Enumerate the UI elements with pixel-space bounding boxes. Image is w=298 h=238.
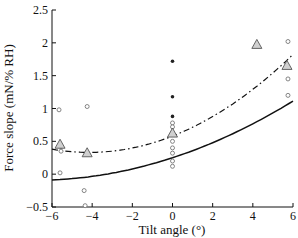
x-axis-label: Tilt angle (°) [139, 222, 206, 237]
open-circle-point [58, 171, 62, 175]
y-axis-label: Force slope (mN/% RH) [1, 44, 16, 171]
open-circle-point [83, 204, 87, 208]
y-tick-label: 0 [42, 167, 48, 181]
x-tick-label: −2 [126, 209, 139, 223]
x-tick-label: −6 [46, 209, 59, 223]
open-circle-point [85, 105, 89, 109]
data-points [55, 39, 292, 207]
open-circle-point [171, 146, 175, 150]
open-circle-point [171, 121, 175, 125]
y-tick-label: 2.5 [33, 3, 48, 17]
y-tick-label: 1 [42, 102, 48, 116]
x-tick-label: 6 [290, 209, 296, 223]
filled-dot-point [171, 59, 175, 63]
y-tick-label: 1.5 [33, 69, 48, 83]
open-circle-point [171, 164, 175, 168]
filled-dot-point [171, 95, 175, 99]
y-tick-label: 0.5 [33, 134, 48, 148]
chart-svg: −0.500.511.522.5−6−4−20246 Tilt angle (°… [0, 0, 298, 238]
y-tick-label: 2 [42, 36, 48, 50]
open-circle-point [286, 93, 290, 97]
force-slope-chart: −0.500.511.522.5−6−4−20246 Tilt angle (°… [0, 0, 298, 238]
triangle-mean-point [252, 39, 262, 48]
open-circle-point [171, 151, 175, 155]
open-circle-point [59, 149, 63, 153]
open-circle-point [171, 139, 175, 143]
x-tick-label: 2 [210, 209, 216, 223]
fit-curve-dash-dot [52, 55, 293, 153]
triangle-mean-point [168, 128, 178, 137]
x-tick-label: 0 [170, 209, 176, 223]
open-circle-point [286, 77, 290, 81]
open-circle-point [57, 108, 61, 112]
triangle-mean-point [282, 60, 292, 69]
x-tick-label: 4 [250, 209, 256, 223]
open-circle-point [82, 189, 86, 193]
open-circle-point [171, 159, 175, 163]
open-circle-point [286, 40, 290, 44]
x-tick-label: −4 [86, 209, 99, 223]
filled-dot-point [171, 115, 175, 119]
triangle-mean-point [55, 139, 65, 148]
axes: −0.500.511.522.5−6−4−20246 [26, 3, 296, 223]
